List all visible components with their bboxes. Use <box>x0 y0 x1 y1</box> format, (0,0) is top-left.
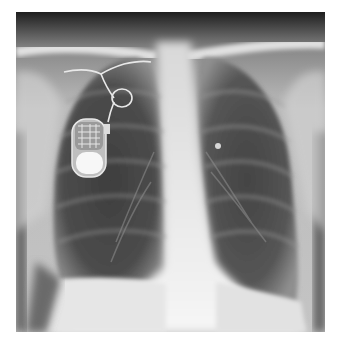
pacemaker-battery <box>76 152 103 174</box>
xray-drawing <box>16 12 325 332</box>
right-diaphragm <box>46 278 166 332</box>
hilar-density <box>215 143 221 149</box>
pacemaker-device <box>72 119 110 177</box>
xray-image <box>16 12 325 332</box>
